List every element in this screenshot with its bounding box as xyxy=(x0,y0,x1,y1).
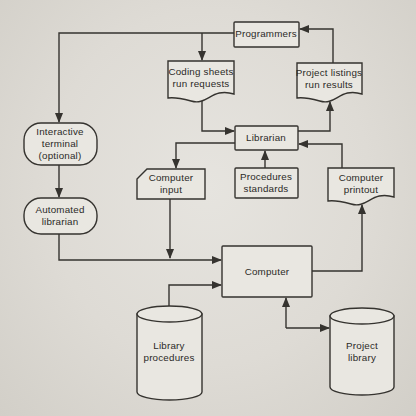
node-interactive-terminal: Interactiveterminal(optional) xyxy=(24,123,97,165)
node-interactive-terminal-label: Interactiveterminal(optional) xyxy=(36,126,84,161)
node-programmers-label: Programmers xyxy=(235,28,297,39)
edge-coding-sheets-to-librarian xyxy=(202,98,234,131)
node-librarian: Librarian xyxy=(235,126,298,150)
node-project-library-label: Projectlibrary xyxy=(346,340,378,363)
node-automated-librarian: Automatedlibrarian xyxy=(24,198,97,234)
edge-librarian-to-project-listings xyxy=(298,102,330,131)
flowchart-svg: ProgrammersCoding sheetsrun requestsProj… xyxy=(0,0,416,416)
node-programmers: Programmers xyxy=(234,22,299,47)
edge-project-listings-to-programmers xyxy=(300,29,333,63)
node-computer-printout-label: Computerprintout xyxy=(339,172,384,195)
node-automated-librarian-label: Automatedlibrarian xyxy=(35,204,84,227)
node-library-procedures: Libraryprocedures xyxy=(137,306,202,400)
node-computer-printout: Computerprintout xyxy=(328,168,394,205)
edge-librarian-to-computer-input xyxy=(176,143,235,168)
node-librarian-label: Librarian xyxy=(246,132,286,143)
edge-computer-printout-to-librarian xyxy=(299,144,342,168)
node-coding-sheets: Coding sheetsrun requests xyxy=(168,61,234,102)
node-project-listings-label: Project listingsrun results xyxy=(296,67,362,90)
edge-computer-to-computer-printout xyxy=(312,205,362,271)
node-computer-input: Computerinput xyxy=(137,169,205,199)
node-procedures-standards-label: Proceduresstandards xyxy=(240,171,292,194)
node-computer: Computer xyxy=(222,246,312,297)
edge-library-procedures-to-computer xyxy=(169,285,221,306)
node-procedures-standards: Proceduresstandards xyxy=(235,168,298,198)
node-computer-label: Computer xyxy=(245,266,290,277)
nodes-layer: ProgrammersCoding sheetsrun requestsProj… xyxy=(24,22,394,400)
edge-automated-librarian-to-computer xyxy=(59,234,221,260)
node-project-listings: Project listingsrun results xyxy=(296,63,362,102)
node-project-library: Projectlibrary xyxy=(330,308,394,395)
node-coding-sheets-label: Coding sheetsrun requests xyxy=(168,66,233,89)
scanned-figure-page: ProgrammersCoding sheetsrun requestsProj… xyxy=(0,0,416,416)
